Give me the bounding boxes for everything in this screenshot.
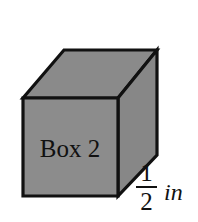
- cube-figure: Box 2 1 2 in: [0, 0, 198, 222]
- fraction-denominator: 2: [137, 188, 156, 214]
- dimension-label: 1 2 in: [136, 160, 183, 214]
- dimension-unit: in: [164, 169, 183, 206]
- fraction-one-half: 1 2: [136, 160, 157, 214]
- cube-face-label: Box 2: [40, 135, 100, 162]
- fraction-numerator: 1: [137, 160, 156, 186]
